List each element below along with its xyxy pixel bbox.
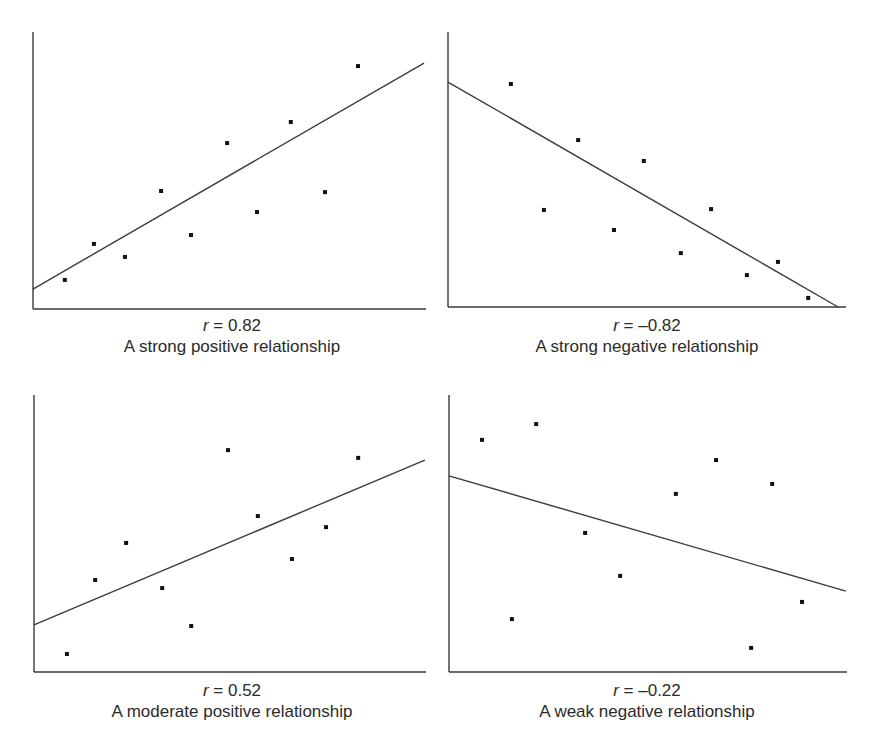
data-point bbox=[749, 646, 753, 650]
data-point bbox=[618, 574, 622, 578]
panel-moderate-positive bbox=[34, 395, 426, 672]
data-point bbox=[356, 64, 360, 68]
data-point bbox=[776, 260, 780, 264]
data-point bbox=[480, 438, 484, 442]
data-point bbox=[255, 210, 259, 214]
data-point bbox=[356, 456, 360, 460]
data-point bbox=[124, 541, 128, 545]
data-point bbox=[92, 242, 96, 246]
data-point bbox=[800, 600, 804, 604]
data-point bbox=[576, 138, 580, 142]
data-point bbox=[745, 273, 749, 277]
r-value-label: r = 0.52 bbox=[112, 680, 353, 701]
data-point bbox=[159, 189, 163, 193]
data-point bbox=[65, 652, 69, 656]
best-fit-line bbox=[449, 476, 846, 591]
data-point bbox=[256, 514, 260, 518]
r-value-label: r = –0.82 bbox=[535, 315, 758, 336]
data-point bbox=[714, 458, 718, 462]
data-point bbox=[225, 141, 229, 145]
scatterplot-grid bbox=[0, 0, 871, 754]
data-point bbox=[93, 578, 97, 582]
relationship-description: A moderate positive relationship bbox=[112, 701, 353, 722]
data-point bbox=[770, 482, 774, 486]
best-fit-line bbox=[33, 63, 424, 289]
data-point bbox=[323, 190, 327, 194]
panel-strong-negative bbox=[448, 32, 846, 307]
data-point bbox=[226, 448, 230, 452]
data-point bbox=[542, 208, 546, 212]
data-point bbox=[290, 557, 294, 561]
relationship-description: A strong positive relationship bbox=[124, 336, 340, 357]
data-point bbox=[709, 207, 713, 211]
caption-moderate-positive: r = 0.52 A moderate positive relationshi… bbox=[112, 680, 353, 722]
r-value-label: r = 0.82 bbox=[124, 315, 340, 336]
best-fit-line bbox=[448, 82, 838, 307]
caption-strong-positive: r = 0.82 A strong positive relationship bbox=[124, 315, 340, 357]
data-point bbox=[189, 233, 193, 237]
data-point bbox=[642, 159, 646, 163]
data-point bbox=[509, 82, 513, 86]
data-point bbox=[583, 531, 587, 535]
data-point bbox=[612, 228, 616, 232]
data-point bbox=[324, 525, 328, 529]
panel-strong-positive bbox=[33, 32, 426, 309]
data-point bbox=[63, 278, 67, 282]
data-point bbox=[674, 492, 678, 496]
best-fit-line bbox=[34, 460, 425, 625]
caption-weak-negative: r = –0.22 A weak negative relationship bbox=[539, 680, 754, 722]
panel-weak-negative bbox=[449, 395, 847, 672]
caption-strong-negative: r = –0.82 A strong negative relationship bbox=[535, 315, 758, 357]
data-point bbox=[679, 251, 683, 255]
data-point bbox=[189, 624, 193, 628]
data-point bbox=[510, 617, 514, 621]
r-value-label: r = –0.22 bbox=[539, 680, 754, 701]
relationship-description: A strong negative relationship bbox=[535, 336, 758, 357]
data-point bbox=[160, 586, 164, 590]
relationship-description: A weak negative relationship bbox=[539, 701, 754, 722]
data-point bbox=[806, 296, 810, 300]
data-point bbox=[534, 422, 538, 426]
data-point bbox=[289, 120, 293, 124]
data-point bbox=[123, 255, 127, 259]
